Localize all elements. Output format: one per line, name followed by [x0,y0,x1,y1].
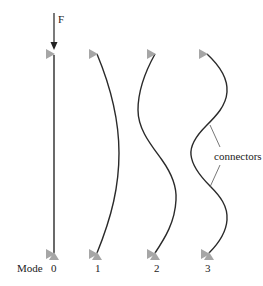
column-mode-1 [89,49,119,260]
leader-line-lower [210,165,220,187]
mode-label-2: 2 [154,262,160,274]
buckling-modes-diagram: F connectors Mode 0 1 2 3 [0,0,263,286]
top-pin-support-icon [199,49,208,59]
mode-label-0: 0 [51,262,57,274]
connectors-annotation: connectors [210,125,262,187]
top-pin-support-icon [147,49,156,59]
connectors-label: connectors [214,150,262,162]
arrow-head-icon [51,42,58,50]
force-label: F [58,13,64,25]
top-pin-support-icon [89,49,98,59]
force-arrow [51,13,58,50]
mode-label-3: 3 [205,262,211,274]
column-mode-2 [138,49,176,260]
mode-label-1: 1 [95,262,101,274]
mode-row-label: Mode [17,262,43,274]
leader-line-upper [210,125,220,147]
column-mode-0 [46,49,59,260]
